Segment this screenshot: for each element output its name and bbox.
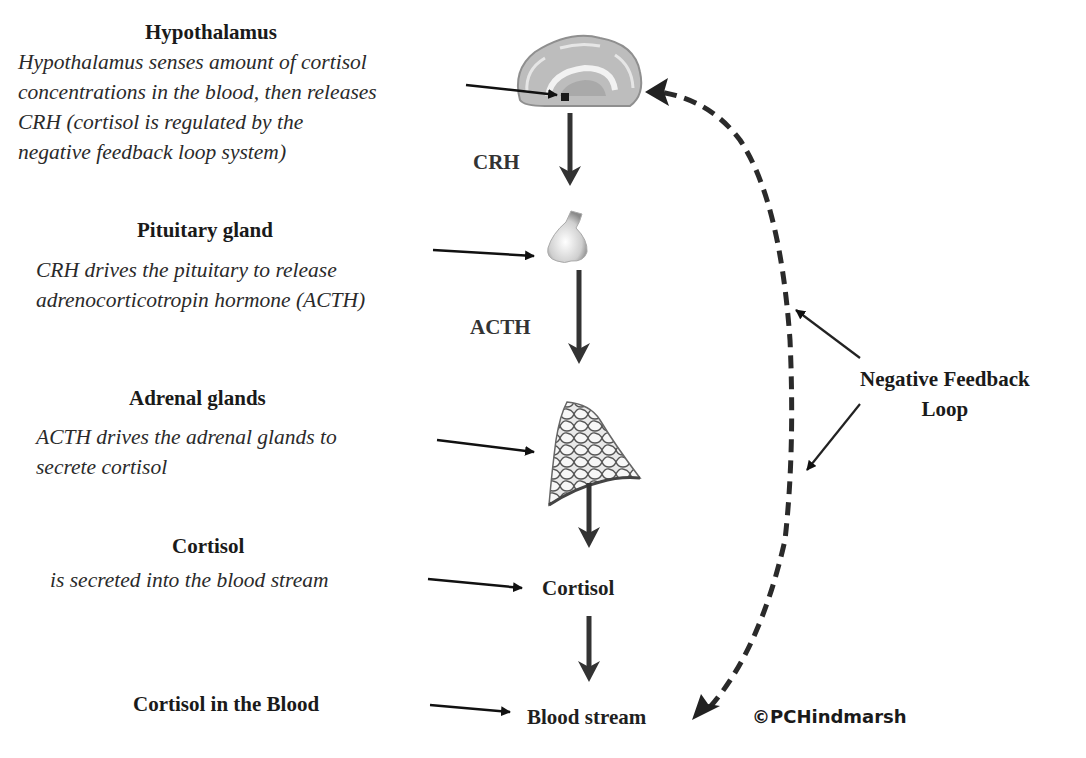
description-line: Hypothalamus senses amount of cortisol <box>18 47 377 77</box>
pituitary-description: CRH drives the pituitary to release adre… <box>36 255 365 315</box>
brain-icon <box>518 36 641 106</box>
description-line: negative feedback loop system) <box>18 137 377 167</box>
feedback-loop-arrow <box>645 78 792 720</box>
pituitary-heading: Pituitary gland <box>137 218 273 243</box>
hypothalamus-heading: Hypothalamus <box>145 20 277 45</box>
adrenal-gland-icon <box>549 402 640 505</box>
adrenal-description: ACTH drives the adrenal glands to secret… <box>36 422 337 482</box>
feedback-label-line2: Loop <box>860 394 1030 424</box>
feedback-label-line1: Negative Feedback <box>860 364 1030 394</box>
copyright-notice: ©PCHindmarsh <box>752 706 907 727</box>
description-line: concentrations in the blood, then releas… <box>18 77 377 107</box>
description-line: CRH drives the pituitary to release <box>36 255 365 285</box>
adrenal-heading: Adrenal glands <box>129 386 266 411</box>
pituitary-icon <box>548 211 587 263</box>
acth-label: ACTH <box>470 315 531 340</box>
cortisol-node-label: Cortisol <box>542 576 614 601</box>
negative-feedback-label: Negative Feedback Loop <box>860 364 1030 424</box>
blood-stream-node-label: Blood stream <box>527 705 646 730</box>
crh-label: CRH <box>473 150 520 175</box>
hypothalamus-description: Hypothalamus senses amount of cortisol c… <box>18 47 377 167</box>
description-line: is secreted into the blood stream <box>50 565 328 595</box>
cortisol-in-blood-heading: Cortisol in the Blood <box>133 692 319 717</box>
description-line: CRH (cortisol is regulated by the <box>18 107 377 137</box>
cortisol-heading: Cortisol <box>172 534 244 559</box>
description-line: ACTH drives the adrenal glands to <box>36 422 337 452</box>
cortisol-description: is secreted into the blood stream <box>50 565 328 595</box>
description-line: adrenocorticotropin hormone (ACTH) <box>36 285 365 315</box>
description-line: secrete cortisol <box>36 452 337 482</box>
